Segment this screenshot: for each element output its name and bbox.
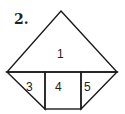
region-5-label: 5: [84, 80, 91, 94]
figure-number: 2.: [14, 11, 29, 27]
region-4-square: [45, 72, 81, 109]
region-3-label: 3: [26, 80, 33, 94]
dissection-figure: 2. 1 3 4 5: [0, 0, 125, 114]
region-1-label: 1: [57, 47, 64, 61]
region-4-label: 4: [55, 80, 62, 94]
